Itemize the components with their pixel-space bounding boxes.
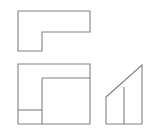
side-view-group[interactable] (106, 65, 142, 124)
front-view-group[interactable] (18, 64, 90, 124)
orthographic-views-svg (0, 0, 157, 135)
front-view-outline[interactable] (18, 64, 90, 124)
technical-drawing-canvas (0, 0, 157, 135)
top-view-outline[interactable] (18, 11, 90, 51)
top-view-group[interactable] (18, 11, 90, 51)
